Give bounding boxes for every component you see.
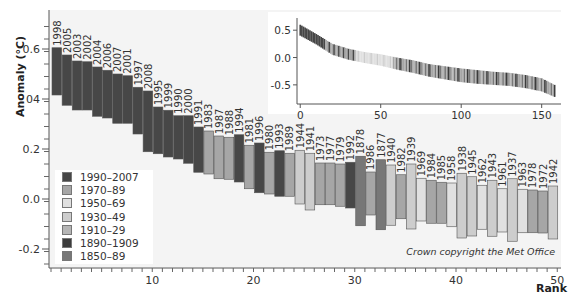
bar-2002 [82,62,92,110]
inset-bar [530,76,532,89]
inset-bar [319,36,321,46]
inset-bar [427,64,429,77]
inset-bar [393,57,395,69]
inset-bar [332,44,334,55]
inset-bar [459,68,461,82]
inset-bar [515,74,517,87]
inset-bar [422,63,424,76]
inset-bar [494,72,496,85]
bar-1969 [417,178,427,221]
inset-bar [446,66,448,79]
inset-bar [406,59,408,71]
bar-1994 [234,135,244,182]
legend-label: 1930–49 [80,211,125,223]
inset-bar [372,53,374,64]
inset-bar [433,65,435,78]
inset-bar [415,61,417,74]
inset-bar [391,57,393,69]
inset-bar [518,74,520,87]
bar-1963 [518,189,528,233]
inset-bar [546,81,548,94]
inset-bar [551,83,553,95]
inset-bar [320,37,322,48]
bar-1941 [305,153,315,210]
legend-item: 1850–89 [55,250,153,263]
legend-swatch [62,238,72,248]
y-axis-label: Anomaly (°C) [14,27,27,127]
ranked-temperature-anomaly-chart: -0.20.00.2040.61020304050199820052003200… [0,0,577,302]
inset-bar [380,54,382,65]
legend-item: 1930–49 [55,210,153,223]
inset-bar [375,54,377,65]
inset-bar [505,73,507,86]
inset-bar [394,57,396,69]
copyright-note: Crown copyright the Met Office [406,246,555,257]
inset-bar [520,74,522,87]
bar-2000 [184,116,194,164]
inset-bar [483,71,485,84]
legend-swatch [62,185,72,195]
inset-bar [467,69,469,83]
inset-bar [468,69,470,83]
inset-bar [502,72,504,85]
inset-bar [353,50,355,61]
inset-x-tick-label: 150 [532,109,552,121]
x-tick-label: 40 [449,274,463,287]
legend-item: 1990–2007 [55,170,153,183]
inset-bar [362,52,364,63]
inset-y-tick-label: -0.5 [271,79,292,91]
bar-1990 [174,116,184,159]
bar-1972 [538,191,548,233]
inset-bar [340,46,342,57]
inset-y-tick-label: 0.5 [274,24,291,36]
inset-bar [343,47,345,58]
x-tick-label: 10 [145,274,159,287]
y-tick-label: 0.0 [23,193,41,206]
x-axis-label: Rank [536,282,567,295]
inset-bar [365,52,367,63]
bar-1942 [548,186,558,239]
inset-bar [312,32,314,42]
legend-swatch [62,172,72,182]
inset-bar [335,45,337,56]
inset-bar [383,55,385,67]
inset-bar [480,70,482,84]
inset-bar [454,68,456,81]
bar-1991 [194,127,204,172]
bar-1978 [528,190,538,233]
bar-1878 [356,156,366,226]
inset-bar [514,73,516,86]
inset-bar [486,71,488,84]
inset-bar [533,77,535,90]
bar-1962 [477,185,487,229]
inset-bar [457,68,459,82]
bar-1979 [336,164,346,206]
inset-bar [410,60,412,73]
inset-bar [456,68,458,82]
inset-bar [344,48,346,59]
legend-swatch [62,212,72,222]
inset-bar [401,58,403,70]
inset-bar [386,56,388,68]
inset-bar [382,55,384,67]
inset-bar [436,65,438,78]
inset-bar [489,71,491,84]
bar-1981 [244,145,254,189]
inset-bar [534,77,536,90]
inset-bar [402,59,404,71]
inset-bar [510,73,512,86]
inset-bar [385,55,387,67]
x-tick-label: 20 [247,274,261,287]
bar-1983 [204,131,214,174]
bar-1940 [386,165,396,225]
inset-bar [306,28,308,39]
inset-bar [322,38,324,49]
inset-bar [517,74,519,87]
bar-year-label: 1942 [548,159,559,184]
inset-bar [523,75,525,88]
inset-bar [539,78,541,91]
inset-bar [373,53,375,64]
inset-bar [317,35,319,45]
inset-bar [328,42,330,53]
legend: 1990–20071970–891950–691930–491910–29189… [55,170,153,264]
